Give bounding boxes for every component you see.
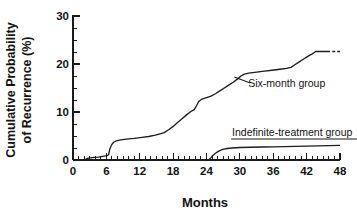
series-curves-group xyxy=(73,52,340,160)
x-axis-major-ticks xyxy=(73,153,340,160)
y-tick-label: 20 xyxy=(56,58,69,70)
chart-figure: 0612182430364248 0102030 Months Cumulati… xyxy=(0,0,357,216)
series-label-indefinite: Indefinite-treatment group xyxy=(232,126,352,138)
y-axis-title: Cumulative Probability of Recurrence (%) xyxy=(4,22,34,157)
y-tick-label: 10 xyxy=(56,106,69,118)
x-tick-label: 30 xyxy=(233,165,246,177)
x-tick-label: 0 xyxy=(70,165,76,177)
x-tick-label: 42 xyxy=(300,165,313,177)
x-tick-label: 6 xyxy=(103,165,109,177)
y-axis-title-line1: Cumulative Probability xyxy=(4,22,18,157)
y-tick-label: 0 xyxy=(63,154,69,166)
y-axis-title-line2: of Recurrence (%) xyxy=(20,37,34,144)
y-tick-label: 30 xyxy=(56,10,69,22)
annotation-indefinite-treatment-group: Indefinite-treatment group xyxy=(231,126,357,139)
y-axis-tick-labels: 0102030 xyxy=(56,10,69,166)
x-axis-title: Months xyxy=(182,195,228,210)
x-tick-label: 12 xyxy=(133,165,146,177)
x-tick-label: 24 xyxy=(200,165,213,177)
x-axis-tick-labels: 0612182430364248 xyxy=(70,165,347,177)
x-tick-label: 36 xyxy=(267,165,280,177)
chart-plot-area: 0612182430364248 0102030 Months Cumulati… xyxy=(0,0,357,216)
annotation-six-month-group: Six-month group xyxy=(234,77,325,89)
series-curve-0 xyxy=(73,52,330,160)
x-tick-label: 18 xyxy=(167,165,180,177)
series-label-six-month: Six-month group xyxy=(248,77,325,89)
x-tick-label: 48 xyxy=(334,165,347,177)
